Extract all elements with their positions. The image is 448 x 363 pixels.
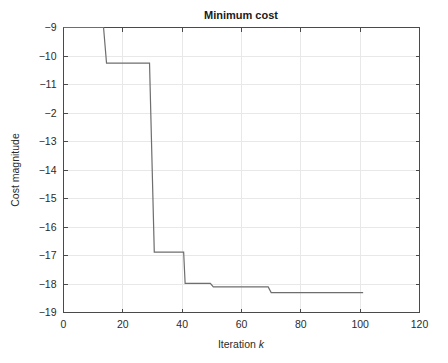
chart-background — [0, 0, 448, 363]
x-tick-label: 40 — [176, 318, 188, 330]
y-tick-label: −2 — [45, 107, 57, 119]
x-tick-label: 20 — [117, 318, 129, 330]
x-tick-label: 120 — [411, 318, 429, 330]
x-tick-label: 0 — [61, 318, 67, 330]
figure-minimum-cost: −9−10−11−2−13−14−15−16−17−18−19 02040608… — [0, 0, 448, 363]
y-tick-label: −10 — [39, 50, 57, 62]
y-tick-label: −15 — [39, 192, 57, 204]
y-axis-title: Cost magnitude — [9, 133, 21, 207]
x-tick-label: 60 — [236, 318, 248, 330]
y-tick-label: −16 — [39, 221, 57, 233]
y-tick-label: −11 — [39, 78, 56, 90]
y-tick-label: −17 — [39, 249, 57, 261]
y-tick-label: −13 — [39, 135, 57, 147]
y-tick-label: −14 — [39, 164, 57, 176]
x-tick-label: 100 — [351, 318, 369, 330]
y-tick-label: −18 — [39, 278, 57, 290]
y-tick-label: −19 — [39, 306, 57, 318]
x-tick-label: 80 — [295, 318, 307, 330]
x-axis-title: Iteration k — [218, 338, 265, 350]
minimum-cost-line-chart: −9−10−11−2−13−14−15−16−17−18−19 02040608… — [0, 0, 448, 363]
chart-title: Minimum cost — [204, 9, 278, 21]
y-tick-label: −9 — [45, 21, 57, 33]
